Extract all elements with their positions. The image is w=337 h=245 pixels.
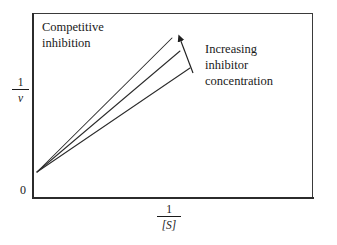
increasing-inhibitor-concentration-label: Increasing inhibitor concentration (205, 41, 273, 89)
y-axis-numerator: 1 (12, 76, 29, 89)
x-axis-denominator: [S] (157, 218, 181, 231)
increasing-concentration-arrow (181, 40, 194, 73)
inhibition-line-mid (37, 51, 180, 172)
plot-title: Competitive inhibition (42, 19, 104, 51)
y-axis-denominator: v (12, 91, 29, 104)
inhibition-line-high (37, 38, 172, 172)
lineweaver-burk-competitive-inhibition-figure: Competitive inhibition Increasing inhibi… (0, 0, 337, 245)
x-axis-label: 1 [S] (157, 203, 181, 231)
inhibition-line-low (37, 68, 190, 172)
y-axis-label: 1 v (12, 76, 29, 104)
x-axis-numerator: 1 (157, 203, 181, 216)
origin-label: 0 (20, 183, 26, 198)
x-axis-fraction-rule (157, 216, 181, 217)
y-axis-fraction-rule (12, 89, 29, 90)
